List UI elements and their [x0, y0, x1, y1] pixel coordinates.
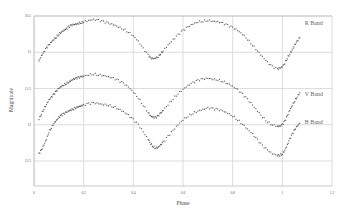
data-point	[196, 80, 197, 81]
data-point	[166, 137, 167, 138]
data-point	[262, 56, 263, 57]
data-point	[274, 124, 275, 125]
data-point	[249, 130, 250, 131]
data-point	[49, 44, 50, 45]
data-point	[71, 110, 72, 111]
data-point	[81, 21, 82, 22]
data-point	[98, 75, 99, 76]
data-point	[222, 22, 223, 23]
data-point	[121, 111, 122, 112]
data-point	[61, 86, 62, 87]
data-point	[290, 138, 291, 139]
data-point	[291, 135, 292, 136]
data-point	[57, 119, 58, 120]
data-point	[60, 33, 61, 34]
data-point	[252, 133, 253, 134]
data-point	[289, 110, 290, 111]
data-point	[286, 60, 287, 61]
data-point	[166, 47, 167, 48]
data-point	[43, 146, 44, 147]
data-point	[63, 85, 64, 86]
data-point	[100, 103, 101, 104]
data-point	[297, 97, 298, 98]
data-point	[159, 145, 160, 146]
data-point	[252, 105, 253, 106]
data-point	[262, 144, 263, 145]
data-point	[235, 88, 236, 89]
data-point	[90, 20, 91, 21]
data-point	[244, 125, 245, 126]
data-point	[169, 43, 170, 44]
data-point	[267, 149, 268, 150]
data-point	[136, 122, 137, 123]
data-point	[91, 74, 92, 75]
data-point	[56, 37, 57, 38]
data-point	[138, 98, 139, 99]
light-curve-chart: 10.51111.51212.500.20.40.60.811.2 R Band…	[0, 0, 345, 211]
data-point	[52, 94, 53, 95]
data-point	[162, 52, 163, 53]
data-point	[39, 153, 40, 154]
data-point	[229, 83, 230, 84]
data-point	[81, 23, 82, 24]
data-point	[81, 76, 82, 77]
data-point	[202, 78, 203, 79]
data-point	[181, 121, 182, 122]
data-point	[225, 112, 226, 113]
data-point	[242, 124, 243, 125]
data-point	[282, 154, 283, 155]
data-point	[247, 98, 248, 99]
data-point	[237, 30, 238, 31]
data-point	[44, 51, 45, 52]
data-point	[279, 156, 280, 157]
data-point	[280, 153, 281, 154]
data-point	[133, 118, 134, 119]
data-point	[78, 76, 79, 77]
data-point	[229, 26, 230, 27]
data-point	[181, 91, 182, 92]
data-point	[83, 22, 84, 23]
data-point	[162, 142, 163, 143]
data-point	[134, 37, 135, 38]
data-point	[120, 26, 121, 27]
data-point	[225, 23, 226, 24]
data-point	[105, 23, 106, 24]
data-point	[134, 93, 135, 94]
data-point	[67, 112, 68, 113]
data-point	[239, 31, 240, 32]
data-point	[156, 147, 157, 148]
data-point	[196, 22, 197, 23]
data-point	[227, 113, 228, 114]
data-point	[184, 30, 185, 31]
data-point	[48, 101, 49, 102]
data-point	[113, 107, 114, 108]
data-point	[216, 108, 217, 109]
data-point	[189, 26, 190, 27]
data-point	[86, 75, 87, 76]
data-point	[44, 143, 45, 144]
data-point	[230, 85, 231, 86]
data-point	[204, 19, 205, 20]
data-point	[116, 26, 117, 27]
data-point	[291, 51, 292, 52]
data-point	[192, 24, 193, 25]
data-point	[297, 126, 298, 127]
data-point	[146, 136, 147, 137]
x-tick-label: 0.2	[81, 191, 86, 195]
data-point	[194, 22, 195, 23]
data-point	[149, 56, 150, 57]
data-point	[98, 19, 99, 20]
series-label: B Band	[305, 119, 323, 125]
data-point	[125, 113, 126, 114]
data-point	[166, 106, 167, 107]
data-point	[239, 92, 240, 93]
data-point	[85, 105, 86, 106]
data-point	[209, 78, 210, 79]
data-point	[293, 48, 294, 49]
data-point	[98, 103, 99, 104]
data-point	[191, 83, 192, 84]
data-point	[292, 105, 293, 106]
data-point	[70, 81, 71, 82]
data-point	[197, 22, 198, 23]
data-point	[96, 19, 97, 20]
